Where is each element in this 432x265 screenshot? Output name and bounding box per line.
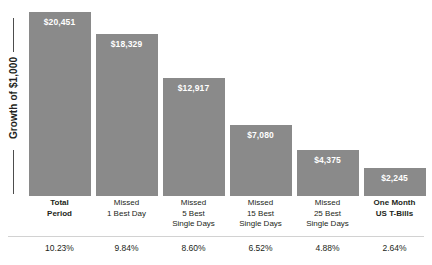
annual-return-value: 8.60% (160, 243, 227, 259)
category-label: One MonthUS T-Bills (361, 198, 428, 232)
category-label-line: One Month (362, 198, 427, 209)
bar-column: $18,329 (93, 0, 160, 196)
category-label-line: 25 Best (295, 209, 360, 220)
bar[interactable]: $2,245 (364, 168, 426, 196)
bar-column: $20,451 (26, 0, 93, 196)
annual-return-value: 2.64% (361, 243, 428, 259)
category-label-line: Missed (295, 198, 360, 209)
bar-value-label: $2,245 (364, 173, 426, 183)
category-label-line: 1 Best Day (94, 209, 159, 220)
bar-value-label: $12,917 (163, 83, 225, 93)
y-axis-label: Growth of $1,000 (8, 57, 19, 139)
y-axis-line-lower (13, 150, 14, 194)
bar-value-label: $7,080 (230, 130, 292, 140)
category-label-line: 5 Best (161, 209, 226, 220)
annual-return-row: 10.23%9.84%8.60%6.52%4.88%2.64% (26, 243, 428, 259)
bar-value-label: $18,329 (96, 39, 158, 49)
bar[interactable]: $12,917 (163, 78, 225, 196)
growth-of-1000-bar-chart: Growth of $1,000 $20,451$18,329$12,917$7… (0, 0, 432, 265)
bar-column: $12,917 (160, 0, 227, 196)
bar-value-label: $4,375 (297, 155, 359, 165)
category-label: Missed15 BestSingle Days (227, 198, 294, 232)
y-axis-line-upper (13, 18, 14, 52)
bar-columns: $20,451$18,329$12,917$7,080$4,375$2,245 (26, 0, 428, 196)
category-label-line: Single Days (228, 219, 293, 230)
category-label-line: Missed (161, 198, 226, 209)
category-label: Missed1 Best Day (93, 198, 160, 232)
category-label-line: Missed (94, 198, 159, 209)
category-label: Missed25 BestSingle Days (294, 198, 361, 232)
annual-return-value: 10.23% (26, 243, 93, 259)
category-label-line: Single Days (295, 219, 360, 230)
category-label-line: US T-Bills (362, 209, 427, 220)
bar[interactable]: $4,375 (297, 150, 359, 196)
category-label-line: Single Days (161, 219, 226, 230)
category-label-line: Period (27, 209, 92, 220)
annual-return-value: 6.52% (227, 243, 294, 259)
y-axis: Growth of $1,000 (0, 0, 26, 196)
category-label: TotalPeriod (26, 198, 93, 232)
annual-return-value: 9.84% (93, 243, 160, 259)
bar[interactable]: $20,451 (29, 12, 91, 196)
bar[interactable]: $18,329 (96, 34, 158, 196)
category-label-line: 15 Best (228, 209, 293, 220)
annual-return-value: 4.88% (294, 243, 361, 259)
bar-column: $7,080 (227, 0, 294, 196)
category-label-line: Missed (228, 198, 293, 209)
bar[interactable]: $7,080 (230, 125, 292, 196)
bar-value-label: $20,451 (29, 17, 91, 27)
footer-divider (8, 236, 424, 237)
plot-area: $20,451$18,329$12,917$7,080$4,375$2,245 (26, 0, 428, 196)
category-label-line: Total (27, 198, 92, 209)
bar-column: $4,375 (294, 0, 361, 196)
category-label: Missed5 BestSingle Days (160, 198, 227, 232)
bar-column: $2,245 (361, 0, 428, 196)
category-labels-row: TotalPeriodMissed1 Best DayMissed5 BestS… (26, 198, 428, 232)
